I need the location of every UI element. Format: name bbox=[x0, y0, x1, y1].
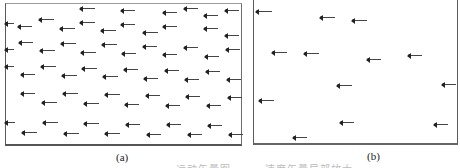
velocity-arrow-icon bbox=[84, 122, 104, 125]
velocity-arrow-icon bbox=[166, 104, 186, 107]
velocity-arrow-icon bbox=[207, 104, 227, 107]
velocity-arrow-icon bbox=[40, 49, 60, 52]
velocity-arrow-icon bbox=[226, 48, 246, 51]
velocity-arrow-icon bbox=[60, 27, 80, 30]
velocity-arrow-icon bbox=[205, 55, 225, 58]
velocity-arrow-icon bbox=[367, 58, 387, 61]
velocity-arrow-icon bbox=[204, 27, 224, 30]
velocity-arrow-icon bbox=[143, 45, 163, 48]
velocity-arrow-icon bbox=[80, 21, 100, 24]
velocity-arrow-icon bbox=[167, 123, 187, 126]
velocity-arrow-icon bbox=[81, 51, 101, 54]
velocity-arrow-icon bbox=[103, 75, 123, 78]
velocity-arrow-icon bbox=[163, 11, 183, 14]
velocity-arrow-icon bbox=[185, 78, 205, 81]
velocity-arrow-icon bbox=[84, 102, 104, 105]
velocity-arrow-icon bbox=[272, 51, 292, 54]
panel-b-label: (b) bbox=[367, 150, 380, 162]
velocity-arrow-icon bbox=[125, 103, 145, 106]
velocity-arrow-icon bbox=[82, 67, 102, 70]
velocity-arrow-icon bbox=[21, 73, 41, 76]
velocity-arrow-icon bbox=[227, 78, 247, 81]
velocity-arrow-icon bbox=[41, 65, 61, 68]
velocity-arrow-icon bbox=[143, 31, 163, 34]
panel-a-label: (a) bbox=[116, 151, 128, 163]
velocity-arrow-icon bbox=[204, 14, 224, 17]
velocity-arrow-icon bbox=[184, 46, 204, 49]
velocity-arrow-icon bbox=[105, 93, 125, 96]
velocity-arrow-icon bbox=[163, 53, 183, 56]
velocity-arrow-icon bbox=[352, 19, 372, 22]
velocity-arrow-icon bbox=[259, 99, 279, 102]
figure-caption-left: 运动矢量图 bbox=[176, 161, 231, 168]
velocity-arrow-icon bbox=[105, 132, 125, 135]
velocity-arrow-icon bbox=[80, 7, 100, 10]
velocity-arrow-icon bbox=[165, 69, 185, 72]
velocity-arrow-icon bbox=[228, 96, 248, 99]
velocity-arrow-icon bbox=[320, 16, 340, 19]
velocity-arrow-icon bbox=[434, 123, 454, 126]
velocity-arrow-icon bbox=[102, 43, 122, 46]
velocity-arrow-icon bbox=[144, 77, 164, 80]
velocity-arrow-icon bbox=[61, 42, 81, 45]
velocity-arrow-icon bbox=[163, 25, 183, 28]
velocity-arrow-icon bbox=[186, 95, 206, 98]
velocity-arrow-icon bbox=[122, 52, 142, 55]
velocity-arrow-icon bbox=[22, 131, 42, 134]
velocity-arrow-icon bbox=[225, 34, 245, 37]
velocity-arrow-icon bbox=[229, 133, 249, 136]
velocity-arrow-icon bbox=[5, 121, 25, 124]
velocity-arrow-icon bbox=[63, 92, 83, 95]
velocity-arrow-icon bbox=[5, 65, 25, 68]
velocity-arrow-icon bbox=[39, 18, 59, 21]
velocity-arrow-icon bbox=[19, 41, 39, 44]
velocity-arrow-icon bbox=[304, 52, 324, 55]
velocity-arrow-icon bbox=[184, 7, 204, 10]
velocity-arrow-icon bbox=[208, 124, 228, 127]
velocity-arrow-icon bbox=[43, 121, 63, 124]
velocity-arrow-icon bbox=[18, 25, 38, 28]
velocity-arrow-icon bbox=[293, 136, 313, 139]
velocity-arrow-icon bbox=[5, 48, 25, 51]
velocity-arrow-icon bbox=[126, 123, 146, 126]
velocity-arrow-icon bbox=[64, 132, 84, 135]
velocity-arrow-icon bbox=[188, 133, 208, 136]
velocity-arrow-icon bbox=[206, 70, 226, 73]
velocity-arrow-icon bbox=[225, 9, 245, 12]
velocity-arrow-icon bbox=[121, 23, 141, 26]
velocity-arrow-icon bbox=[21, 92, 41, 95]
velocity-arrow-icon bbox=[62, 74, 82, 77]
velocity-arrow-icon bbox=[42, 101, 62, 104]
velocity-arrow-icon bbox=[340, 121, 360, 124]
figure-caption-right: 速度矢量局部放大 bbox=[265, 161, 353, 168]
velocity-arrow-icon bbox=[256, 10, 276, 13]
velocity-arrow-icon bbox=[147, 133, 167, 136]
velocity-arrow-icon bbox=[337, 84, 357, 87]
velocity-arrow-icon bbox=[101, 29, 121, 32]
velocity-arrow-icon bbox=[146, 94, 166, 97]
velocity-arrow-icon bbox=[124, 68, 144, 71]
velocity-arrow-icon bbox=[442, 83, 460, 86]
velocity-arrow-icon bbox=[408, 54, 428, 57]
velocity-arrow-icon bbox=[121, 9, 141, 12]
